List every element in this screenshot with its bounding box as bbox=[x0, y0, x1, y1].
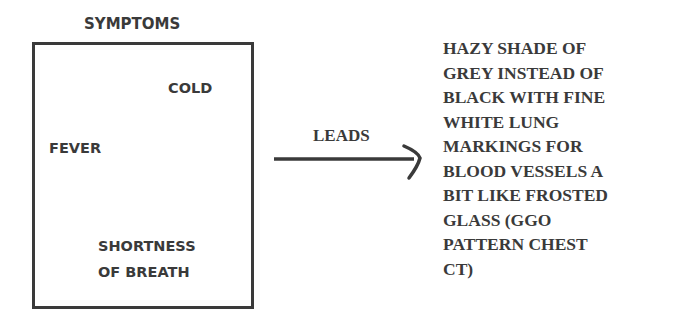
result-line: BIT LIKE FROSTED bbox=[443, 183, 678, 208]
result-line: GREY INSTEAD OF bbox=[443, 61, 678, 86]
result-line: GLASS (GGO bbox=[443, 208, 678, 233]
result-line: PATTERN CHEST bbox=[443, 232, 678, 257]
result-line: BLOOD VESSELS A bbox=[443, 159, 678, 184]
result-line: WHITE LUNG bbox=[443, 110, 678, 135]
result-line: BLACK WITH FINE bbox=[443, 85, 678, 110]
result-line: MARKINGS FOR bbox=[443, 134, 678, 159]
result-line: CT) bbox=[443, 257, 678, 282]
result-line: HAZY SHADE OF bbox=[443, 36, 678, 61]
result-description: HAZY SHADE OF GREY INSTEAD OF BLACK WITH… bbox=[443, 36, 678, 281]
